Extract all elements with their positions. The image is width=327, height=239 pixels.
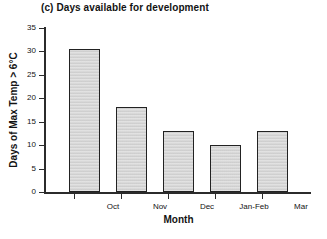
x-axis-title: Month xyxy=(46,214,311,225)
y-axis-title: Days of Max Temp > 6°C xyxy=(8,0,21,28)
y-axis-tick: 35 xyxy=(39,28,44,29)
x-axis-tick-label: Mar xyxy=(294,202,308,211)
y-axis-tick: 15 xyxy=(39,122,44,123)
y-axis-tick: 5 xyxy=(39,169,44,170)
y-axis-tick-label: 25 xyxy=(27,70,36,79)
y-axis-tick-label: 0 xyxy=(32,187,36,196)
x-axis-tick xyxy=(262,194,263,199)
chart-title: (c) Days available for development xyxy=(41,2,209,13)
y-axis-line xyxy=(44,27,46,193)
y-axis-title-label: Days of Max Temp > 6°C xyxy=(8,28,19,192)
y-axis-tick-label: 35 xyxy=(27,23,36,32)
bar-jan-feb xyxy=(210,145,241,192)
x-axis-tick xyxy=(121,194,122,199)
x-axis-tick xyxy=(215,194,216,199)
bar-nov xyxy=(116,107,147,192)
x-axis-tick-label: Jan-Feb xyxy=(239,202,268,211)
bar-dec xyxy=(163,131,194,192)
y-axis-tick: 10 xyxy=(39,145,44,146)
y-axis-tick-label: 15 xyxy=(27,117,36,126)
x-axis-tick xyxy=(74,194,75,199)
x-axis-tick xyxy=(168,194,169,199)
bar-mar xyxy=(257,131,288,192)
y-axis-tick: 25 xyxy=(39,75,44,76)
x-axis-tick-label: Nov xyxy=(153,202,167,211)
y-axis-tick-label: 5 xyxy=(32,164,36,173)
x-axis-line xyxy=(44,192,311,194)
y-axis-tick: 20 xyxy=(39,98,44,99)
y-axis-tick-label: 30 xyxy=(27,46,36,55)
bar-oct xyxy=(69,49,100,192)
chart-figure: (c) Days available for development Days … xyxy=(0,0,327,239)
y-axis-tick-label: 20 xyxy=(27,93,36,102)
plot-area: 0 5 10 15 20 25 30 35 Oct Nov Dec J xyxy=(46,28,311,192)
y-axis-tick: 0 xyxy=(39,192,44,193)
y-axis-tick: 30 xyxy=(39,51,44,52)
x-axis-tick-label: Oct xyxy=(107,202,119,211)
y-axis-tick-label: 10 xyxy=(27,140,36,149)
x-axis-tick-label: Dec xyxy=(200,202,214,211)
